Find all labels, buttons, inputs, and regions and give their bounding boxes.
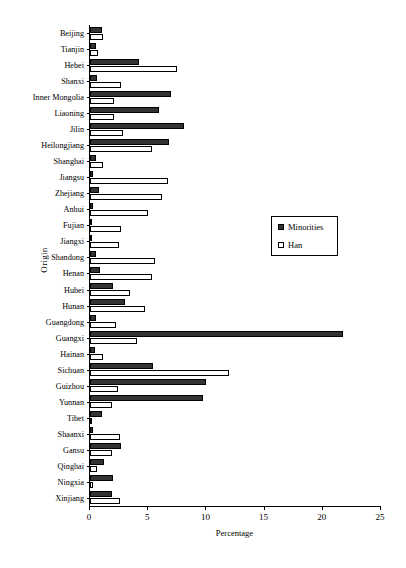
bar-row: Gansu [90, 442, 381, 458]
y-axis-tick-label: Shanghai [54, 157, 84, 166]
bar-chart: Origin BeijingTianjinHebeiShanxiInner Mo… [0, 0, 406, 568]
bar-group [90, 41, 381, 57]
x-axis-tick-label: 10 [201, 512, 210, 522]
bar-row: Tibet [90, 410, 381, 426]
bar-group [90, 410, 381, 426]
legend-swatch-han-icon [278, 242, 284, 248]
legend-item-han: Han [278, 240, 337, 250]
bar-group [90, 169, 381, 185]
y-axis-tick-label: Heilongjiang [41, 141, 84, 150]
y-axis-tick-label: Hubei [64, 285, 84, 294]
bar-han [90, 130, 123, 136]
y-axis-tick-label: Liaoning [54, 109, 84, 118]
bar-minorities [90, 171, 93, 177]
bar-han [90, 450, 112, 456]
bar-row: Anhui [90, 201, 381, 217]
bar-minorities [90, 219, 92, 225]
y-axis-tick-label: Fujian [63, 221, 84, 230]
y-axis-tick-label: Beijing [60, 29, 84, 38]
bar-row: Hunan [90, 298, 381, 314]
bar-han [90, 418, 92, 424]
bar-group [90, 490, 381, 506]
bar-row: Tianjin [90, 41, 381, 57]
y-axis-tick-label: Guangdong [46, 317, 84, 326]
bar-han [90, 370, 229, 376]
bar-row: Guizhou [90, 378, 381, 394]
y-axis-tick-label: Xinjiang [55, 493, 84, 502]
bar-han [90, 354, 103, 360]
y-axis-tick-label: Jilin [70, 125, 84, 134]
bar-group [90, 346, 381, 362]
plot-area: BeijingTianjinHebeiShanxiInner MongoliaL… [89, 25, 381, 507]
bar-minorities [90, 203, 93, 209]
bar-group [90, 426, 381, 442]
bar-minorities [90, 411, 102, 417]
y-axis-tick-label: Tibet [67, 413, 84, 422]
y-axis-tick-label: Jiangxi [60, 237, 84, 246]
bar-group [90, 105, 381, 121]
x-axis-tick [147, 506, 148, 510]
bar-han [90, 146, 152, 152]
legend-label-minorities: Minorities [288, 222, 323, 232]
bar-han [90, 498, 120, 504]
y-axis-tick-label: Tianjin [61, 45, 84, 54]
bar-group [90, 121, 381, 137]
bar-rows: BeijingTianjinHebeiShanxiInner MongoliaL… [90, 25, 381, 506]
bar-group [90, 201, 381, 217]
bar-minorities [90, 107, 159, 113]
bar-group [90, 153, 381, 169]
bar-minorities [90, 347, 95, 353]
bar-han [90, 82, 121, 88]
bar-han [90, 338, 137, 344]
bar-row: Henan [90, 265, 381, 281]
x-axis-tick [322, 506, 323, 510]
x-axis-tick-label: 20 [317, 512, 326, 522]
bar-han [90, 258, 155, 264]
bar-han [90, 274, 152, 280]
bar-row: Xinjiang [90, 490, 381, 506]
y-axis-title: Origin [39, 220, 49, 300]
y-axis-tick-label: Shaanxi [58, 429, 84, 438]
bar-group [90, 314, 381, 330]
y-axis-tick-label: Guizhou [56, 381, 84, 390]
bar-han [90, 98, 114, 104]
y-axis-tick-label: Henan [63, 269, 84, 278]
bar-group [90, 57, 381, 73]
bar-row: Shaanxi [90, 426, 381, 442]
bar-minorities [90, 299, 125, 305]
bar-row: Ningxia [90, 474, 381, 490]
bar-minorities [90, 379, 206, 385]
legend-label-han: Han [288, 240, 302, 250]
bar-han [90, 434, 120, 440]
legend: Minorities Han [271, 216, 338, 256]
y-axis-tick-label: Sichuan [58, 365, 84, 374]
y-axis-tick-label: Inner Mongolia [33, 93, 84, 102]
bar-minorities [90, 395, 203, 401]
bar-han [90, 194, 162, 200]
bar-minorities [90, 267, 100, 273]
x-axis-tick [205, 506, 206, 510]
bar-row: Jilin [90, 121, 381, 137]
bar-group [90, 185, 381, 201]
bar-minorities [90, 427, 93, 433]
y-axis-tick-label: Guangxi [56, 333, 84, 342]
x-axis-tick-label: 0 [87, 512, 92, 522]
bar-group [90, 298, 381, 314]
bar-han [90, 386, 118, 392]
bar-han [90, 210, 148, 216]
bar-minorities [90, 139, 169, 145]
bar-han [90, 114, 114, 120]
bar-minorities [90, 27, 102, 33]
bar-minorities [90, 331, 343, 337]
y-axis-tick-label: Jiangsu [59, 173, 84, 182]
bar-row: Shanghai [90, 153, 381, 169]
y-axis-tick-label: Shandong [51, 253, 84, 262]
x-axis-tick [380, 506, 381, 510]
bar-group [90, 474, 381, 490]
bar-row: Jiangsu [90, 169, 381, 185]
bar-minorities [90, 283, 113, 289]
bar-han [90, 402, 112, 408]
bar-group [90, 137, 381, 153]
y-axis-tick-label: Shanxi [61, 77, 84, 86]
x-axis-ticks [89, 506, 380, 511]
